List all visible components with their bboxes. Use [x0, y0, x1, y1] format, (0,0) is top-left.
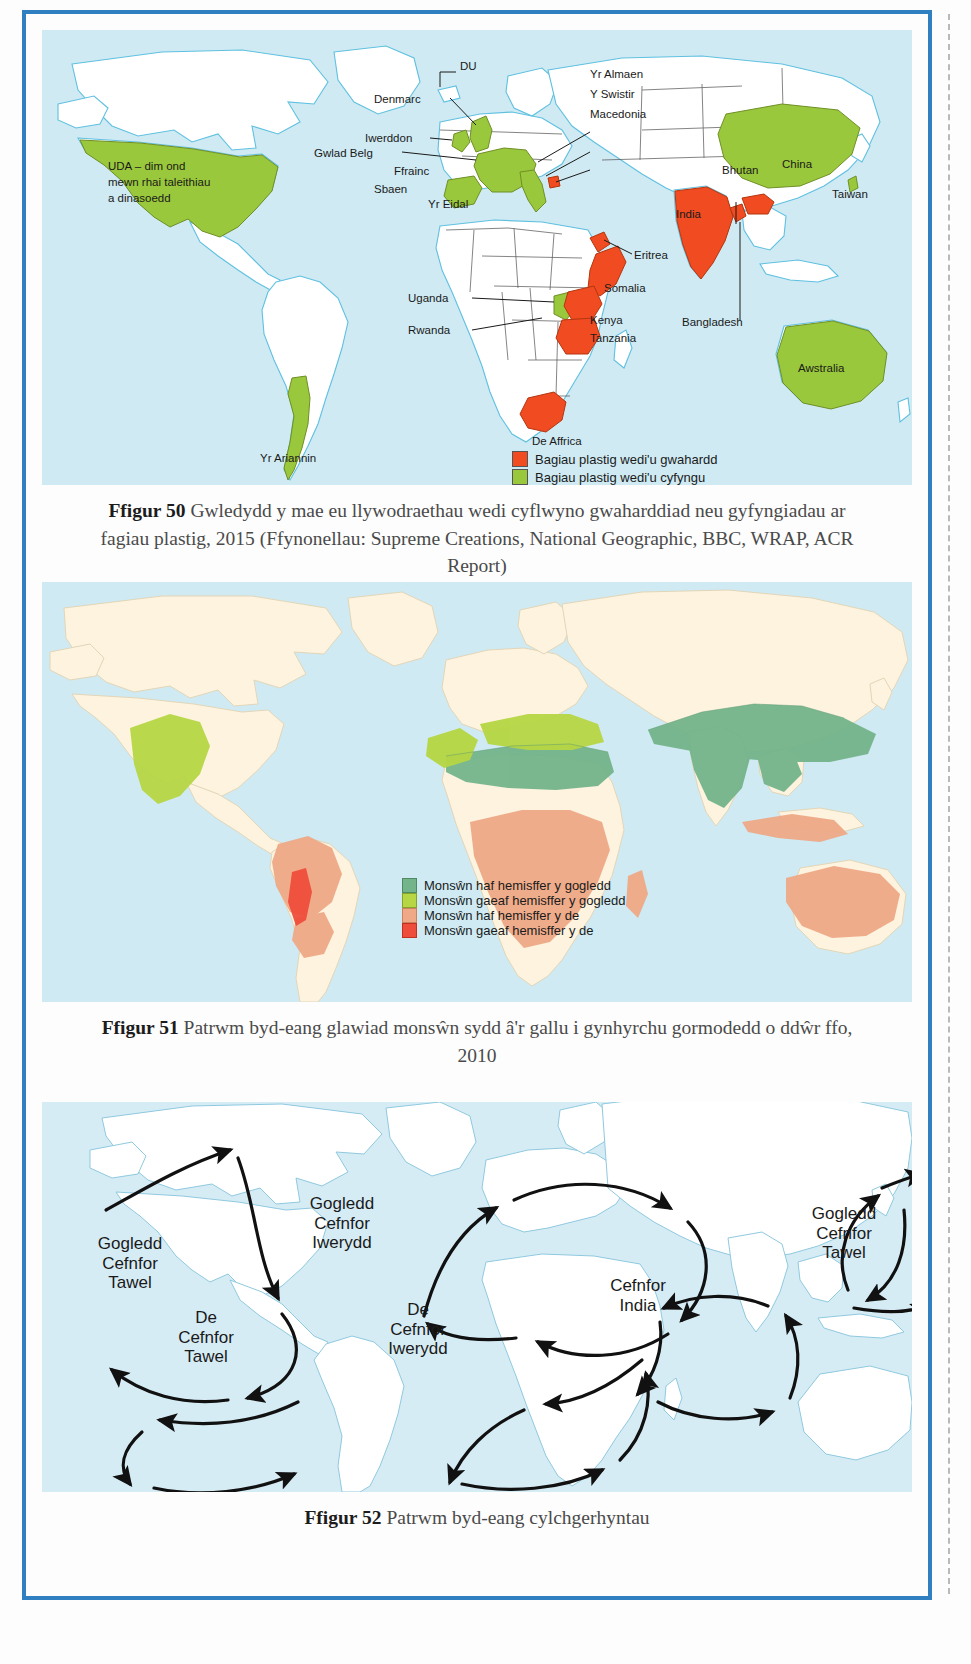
map50-label-kenya: Kenya	[590, 314, 623, 326]
legend-item-nh-winter: Monsŵn gaeaf hemisffer y gogledd	[402, 893, 625, 908]
figure-52-number: Ffigur 52	[304, 1507, 381, 1528]
figure-51-caption: Ffigur 51 Patrwm byd-eang glawiad monsŵn…	[42, 1002, 912, 1069]
legend-item-restricted: Bagiau plastig wedi'u cyfyngu	[512, 469, 717, 485]
legend-item-sh-winter: Monsŵn gaeaf hemisffer y de	[402, 923, 625, 938]
world-map-monsoon	[42, 582, 912, 1002]
map50-label-macedonia: Macedonia	[590, 108, 647, 120]
gyre-label-indian-ocean: CefnforIndia	[592, 1276, 684, 1315]
map50-label-china: China	[782, 158, 813, 170]
gyre-label-south-pacific: DeCefnforTawel	[162, 1308, 250, 1367]
gyre-label-north-atlantic: GogleddCefnforIwerydd	[292, 1194, 392, 1253]
map50-label-gwlad-belg: Gwlad Belg	[314, 147, 373, 159]
legend-swatch-nh-winter	[402, 893, 417, 908]
page-border-right	[928, 10, 932, 1600]
map50-label-uganda: Uganda	[408, 292, 449, 304]
figure-52-map: GogleddCefnforTawel GogleddCefnforIweryd…	[42, 1102, 912, 1492]
map50-label-yr-eidal: Yr Eidal	[428, 198, 468, 210]
map50-label-somalia: Somalia	[604, 282, 646, 294]
legend-item-sh-summer: Monsŵn haf hemisffer y de	[402, 908, 625, 923]
legend-swatch-restricted	[512, 469, 528, 485]
figure-51: Monsŵn haf hemisffer y gogledd Monsŵn ga…	[42, 582, 912, 1069]
map50-label-taiwan: Taiwan	[832, 188, 868, 200]
figure-50: DU Denmarc Iwerddon Gwlad Belg Ffrainc S…	[42, 30, 912, 580]
map50-label-du: DU	[460, 60, 477, 72]
legend-swatch-banned	[512, 451, 528, 467]
figure-50-map: DU Denmarc Iwerddon Gwlad Belg Ffrainc S…	[42, 30, 912, 485]
map50-label-denmarc: Denmarc	[374, 93, 421, 105]
map50-label-bhutan: Bhutan	[722, 164, 758, 176]
figure-50-legend: Bagiau plastig wedi'u gwahardd Bagiau pl…	[512, 451, 717, 485]
legend-swatch-sh-summer	[402, 908, 417, 923]
legend-label-sh-summer: Monsŵn haf hemisffer y de	[424, 908, 579, 923]
map50-label-awstralia: Awstralia	[798, 362, 845, 374]
gyre-label-south-atlantic: DeCefnforIwerydd	[368, 1300, 468, 1359]
page-border-top	[22, 10, 932, 14]
page-border-left	[22, 10, 26, 1600]
legend-label-restricted: Bagiau plastig wedi'u cyfyngu	[535, 470, 705, 485]
map50-label-bangladesh: Bangladesh	[682, 316, 743, 328]
legend-swatch-sh-winter	[402, 923, 417, 938]
figure-52-caption: Ffigur 52 Patrwm byd-eang cylchgerhyntau	[42, 1492, 912, 1532]
gyre-label-north-pacific-west: GogleddCefnforTawel	[84, 1234, 176, 1293]
map50-label-iwerddon: Iwerddon	[365, 132, 412, 144]
map50-label-tanzania: Tanzania	[590, 332, 637, 344]
legend-label-nh-summer: Monsŵn haf hemisffer y gogledd	[424, 878, 611, 893]
figure-50-caption-text: Gwledydd y mae eu llywodraethau wedi cyf…	[100, 500, 853, 576]
legend-label-nh-winter: Monsŵn gaeaf hemisffer y gogledd	[424, 893, 625, 908]
figure-50-number: Ffigur 50	[108, 500, 185, 521]
figure-51-number: Ffigur 51	[102, 1017, 179, 1038]
figure-51-caption-text: Patrwm byd-eang glawiad monsŵn sydd â'r …	[184, 1017, 853, 1066]
legend-label-banned: Bagiau plastig wedi'u gwahardd	[535, 452, 717, 467]
map50-label-de-affrica: De Affrica	[532, 435, 582, 447]
map50-label-y-swistir: Y Swistir	[590, 88, 635, 100]
world-map-plastic-bags: DU Denmarc Iwerddon Gwlad Belg Ffrainc S…	[42, 30, 912, 485]
map50-label-yr-ariannin: Yr Ariannin	[260, 452, 316, 464]
page-border-bottom	[22, 1596, 932, 1600]
legend-swatch-nh-summer	[402, 878, 417, 893]
map50-label-sbaen: Sbaen	[374, 183, 407, 195]
figure-52-caption-text: Patrwm byd-eang cylchgerhyntau	[386, 1507, 649, 1528]
figure-51-map: Monsŵn haf hemisffer y gogledd Monsŵn ga…	[42, 582, 912, 1002]
textbook-page: DU Denmarc Iwerddon Gwlad Belg Ffrainc S…	[0, 0, 971, 1664]
legend-item-banned: Bagiau plastig wedi'u gwahardd	[512, 451, 717, 467]
gyre-label-north-pacific-east: GogleddCefnforTawel	[794, 1204, 894, 1263]
map50-label-ffrainc: Ffrainc	[394, 165, 429, 177]
world-map-ocean-currents	[42, 1102, 912, 1492]
map50-label-yr-almaen: Yr Almaen	[590, 68, 643, 80]
map50-label-rwanda: Rwanda	[408, 324, 451, 336]
map50-label-india: India	[676, 208, 702, 220]
figure-50-caption: Ffigur 50 Gwledydd y mae eu llywodraetha…	[42, 485, 912, 580]
page-dashed-rule	[948, 14, 950, 1594]
map50-label-eritrea: Eritrea	[634, 249, 668, 261]
legend-item-nh-summer: Monsŵn haf hemisffer y gogledd	[402, 878, 625, 893]
figure-51-legend: Monsŵn haf hemisffer y gogledd Monsŵn ga…	[402, 878, 625, 938]
figure-52: GogleddCefnforTawel GogleddCefnforIweryd…	[42, 1102, 912, 1532]
legend-label-sh-winter: Monsŵn gaeaf hemisffer y de	[424, 923, 594, 938]
